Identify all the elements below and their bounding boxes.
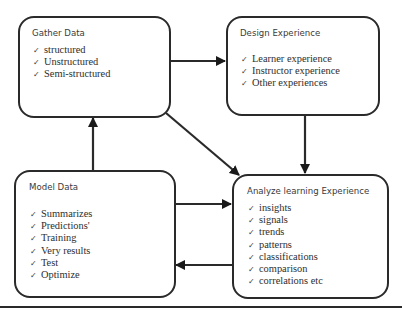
list-item: ✓classifications xyxy=(248,251,323,263)
checkmark-icon: ✓ xyxy=(30,209,41,220)
checkmark-icon: ✓ xyxy=(30,233,41,244)
workflow-diagram: Gather Data ✓structured ✓Unstructured ✓S… xyxy=(0,0,402,316)
list-item: ✓Instructor experience xyxy=(241,65,340,77)
list-item: ✓Unstructured xyxy=(33,56,110,68)
list-item: ✓comparison xyxy=(248,263,323,275)
checkmark-icon: ✓ xyxy=(30,221,41,232)
checkmark-icon: ✓ xyxy=(248,276,259,287)
node-title: Design Experience xyxy=(240,28,320,38)
node-item-list: ✓insights ✓signals ✓trends ✓patterns ✓cl… xyxy=(248,202,323,287)
checkmark-icon: ✓ xyxy=(30,258,41,269)
checkmark-icon: ✓ xyxy=(33,57,44,68)
checkmark-icon: ✓ xyxy=(241,66,252,77)
node-title: Gather Data xyxy=(32,28,85,38)
node-item-list: ✓Learner experience ✓Instructor experien… xyxy=(241,53,340,90)
node-design-experience: Design Experience ✓Learner experience ✓I… xyxy=(226,16,380,116)
list-item: ✓correlations etc xyxy=(248,275,323,287)
node-analyze-learning-experience: Analyze learning Experience ✓insights ✓s… xyxy=(232,174,389,299)
list-item: ✓trends xyxy=(248,226,323,238)
checkmark-icon: ✓ xyxy=(33,45,44,56)
list-item: ✓Very results xyxy=(30,245,92,257)
checkmark-icon: ✓ xyxy=(248,240,259,251)
list-item: ✓Semi-structured xyxy=(33,68,110,80)
checkmark-icon: ✓ xyxy=(30,246,41,257)
list-item: ✓Other experiences xyxy=(241,77,340,89)
bottom-divider xyxy=(0,306,402,308)
checkmark-icon: ✓ xyxy=(248,264,259,275)
arrow-gather-to-analyze xyxy=(166,113,239,175)
checkmark-icon: ✓ xyxy=(248,227,259,238)
checkmark-icon: ✓ xyxy=(248,215,259,226)
node-model-data: Model Data ✓Summarizes ✓Predictions' ✓Tr… xyxy=(14,170,176,298)
checkmark-icon: ✓ xyxy=(30,270,41,281)
checkmark-icon: ✓ xyxy=(248,203,259,214)
list-item: ✓Predictions' xyxy=(30,220,92,232)
list-item: ✓Optimize xyxy=(30,269,92,281)
node-item-list: ✓structured ✓Unstructured ✓Semi-structur… xyxy=(33,44,110,81)
checkmark-icon: ✓ xyxy=(248,252,259,263)
list-item: ✓Summarizes xyxy=(30,208,92,220)
list-item: ✓signals xyxy=(248,214,323,226)
list-item: ✓Learner experience xyxy=(241,53,340,65)
checkmark-icon: ✓ xyxy=(241,54,252,65)
node-title: Analyze learning Experience xyxy=(247,186,369,196)
list-item: ✓Test xyxy=(30,257,92,269)
list-item: ✓Training xyxy=(30,232,92,244)
node-title: Model Data xyxy=(29,182,78,192)
list-item: ✓structured xyxy=(33,44,110,56)
node-item-list: ✓Summarizes ✓Predictions' ✓Training ✓Ver… xyxy=(30,208,92,281)
node-gather-data: Gather Data ✓structured ✓Unstructured ✓S… xyxy=(18,16,171,118)
checkmark-icon: ✓ xyxy=(33,69,44,80)
checkmark-icon: ✓ xyxy=(241,78,252,89)
list-item: ✓insights xyxy=(248,202,323,214)
list-item: ✓patterns xyxy=(248,239,323,251)
